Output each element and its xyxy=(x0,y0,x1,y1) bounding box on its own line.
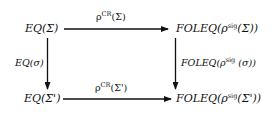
node-top-right-suffix: (Σ)) xyxy=(237,22,258,35)
edge-top-suffix: (Σ) xyxy=(111,11,125,22)
node-top-right: FOLEQ(ρsig(Σ)) xyxy=(176,23,258,34)
commutative-diagram: EQ(Σ) FOLEQ(ρsig(Σ)) EQ(Σ') FOLEQ(ρsig(Σ… xyxy=(0,0,280,114)
edge-right-prefix: FOLEQ(ρ xyxy=(181,57,226,68)
edge-top-sup: CR xyxy=(102,10,112,18)
node-bottom-right-sup: sig xyxy=(228,92,238,100)
node-bottom-right-prefix: FOLEQ(ρ xyxy=(176,92,228,105)
node-top-right-sup: sig xyxy=(228,22,238,30)
edge-bottom-sup: CR xyxy=(101,81,111,89)
node-bottom-right-suffix: (Σ')) xyxy=(237,92,261,105)
edge-right-sup: sig xyxy=(226,56,236,64)
node-top-left: EQ(Σ) xyxy=(25,23,58,34)
edge-label-left: EQ(σ) xyxy=(15,58,44,68)
node-bottom-left-text: EQ(Σ') xyxy=(24,92,60,105)
edge-label-right: FOLEQ(ρsig (σ)) xyxy=(181,58,256,68)
edge-label-bottom: ρCR(Σ') xyxy=(95,83,127,93)
node-top-left-text: EQ(Σ) xyxy=(25,22,58,35)
edge-bottom-suffix: (Σ') xyxy=(110,82,127,93)
node-top-right-prefix: FOLEQ(ρ xyxy=(176,22,228,35)
node-bottom-left: EQ(Σ') xyxy=(24,93,60,104)
edge-right-suffix: (σ)) xyxy=(235,57,256,68)
node-bottom-right: FOLEQ(ρsig(Σ')) xyxy=(176,93,261,104)
edge-left-text: EQ(σ) xyxy=(15,57,44,68)
edge-label-top: ρCR(Σ) xyxy=(96,12,126,22)
